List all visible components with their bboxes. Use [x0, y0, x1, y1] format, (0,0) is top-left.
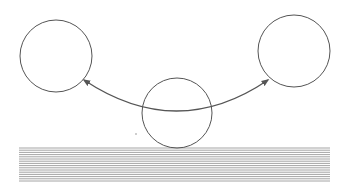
ball-left	[20, 20, 92, 92]
diagram-canvas	[0, 0, 341, 187]
stray-dot	[135, 133, 136, 134]
hatched-surface	[19, 148, 330, 181]
swing-arc-arrow	[84, 80, 268, 111]
ball-right	[258, 15, 330, 87]
ball-center	[142, 78, 212, 148]
